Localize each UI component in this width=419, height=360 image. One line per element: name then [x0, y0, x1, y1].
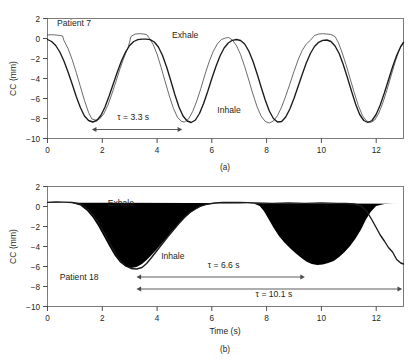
panel-a-ytick-3: −4: [31, 75, 41, 84]
panel-b-xtick-6: 12: [372, 314, 382, 323]
panel-b-xtick-1: 2: [100, 314, 105, 323]
panel-b-ytick-2: −2: [31, 223, 41, 232]
panel-b-x-axis: 0 2 4 6 8 10 12: [45, 307, 381, 324]
panel-b-trace-thin: [48, 202, 404, 268]
panel-a: 2 0 −2 −4 −6 −8 −10 CC (mm) 0 2: [0, 0, 419, 180]
panel-b-plot: 2 0 −2 −4 −6 −8 −10 CC (mm) 0 2 4 6: [0, 176, 419, 360]
panel-a-plot: 2 0 −2 −4 −6 −8 −10 CC (mm) 0 2: [0, 0, 419, 180]
panel-b-xtick-4: 8: [264, 314, 269, 323]
panel-b-xtick-5: 10: [317, 314, 327, 323]
panel-b-tau-short-arrow: [137, 274, 305, 279]
panel-b-patient-label: Patient 18: [60, 272, 99, 282]
panel-b-exhale-label: Exhale: [108, 198, 134, 208]
panel-a-exhale-label: Exhale: [172, 30, 198, 40]
panel-a-xtick-6: 12: [372, 146, 382, 155]
panel-a-inhale-label: Inhale: [217, 105, 241, 115]
panel-a-patient-label: Patient 7: [57, 18, 91, 28]
panel-a-y-axis: 2 0 −2 −4 −6 −8 −10: [26, 15, 47, 144]
panel-a-xtick-4: 8: [264, 146, 269, 155]
panel-a-ytick-2: −2: [31, 55, 41, 64]
panel-b: 2 0 −2 −4 −6 −8 −10 CC (mm) 0 2 4 6: [0, 176, 419, 360]
panel-b-caption: (b): [220, 345, 230, 354]
panel-a-xtick-3: 6: [210, 146, 215, 155]
panel-a-xtick-2: 4: [155, 146, 160, 155]
panel-b-ytick-3: −4: [31, 243, 41, 252]
panel-b-ytick-4: −6: [31, 263, 41, 272]
panel-b-y-axis: 2 0 −2 −4 −6 −8 −10: [26, 183, 47, 312]
panel-b-inhale-label: Inhale: [161, 251, 185, 261]
panel-b-tau-short-label: τ = 6.6 s: [208, 260, 240, 270]
panel-b-xtick-2: 4: [155, 314, 160, 323]
panel-a-tau-label: τ = 3.3 s: [117, 112, 149, 122]
panel-a-ytick-4: −6: [31, 95, 41, 104]
panel-a-xtick-1: 2: [100, 146, 105, 155]
panel-a-x-axis: 0 2 4 6 8 10 12: [45, 139, 381, 156]
panel-a-caption: (a): [220, 163, 230, 172]
panel-a-ytick-1: 0: [35, 35, 40, 44]
panel-a-xtick-0: 0: [45, 146, 50, 155]
panel-a-ytick-0: 2: [35, 15, 40, 24]
panel-b-ylabel: CC (mm): [8, 229, 18, 264]
panel-b-ytick-1: 0: [35, 203, 40, 212]
panel-a-ylabel: CC (mm): [8, 61, 18, 96]
panel-a-tau-arrow: [92, 127, 182, 132]
panel-a-ytick-6: −10: [26, 135, 40, 144]
panel-b-ytick-5: −8: [31, 283, 41, 292]
panel-b-ytick-0: 2: [35, 183, 40, 192]
panel-a-ytick-5: −8: [31, 115, 41, 124]
panel-b-ytick-6: −10: [26, 303, 40, 312]
respiratory-waveform-figure: 2 0 −2 −4 −6 −8 −10 CC (mm) 0 2: [0, 0, 419, 360]
panel-b-tau-long-label: τ = 10.1 s: [256, 289, 293, 299]
panel-b-xtick-3: 6: [210, 314, 215, 323]
panel-b-xtick-0: 0: [45, 314, 50, 323]
panel-b-xlabel: Time (s): [209, 326, 240, 336]
panel-a-xtick-5: 10: [317, 146, 327, 155]
